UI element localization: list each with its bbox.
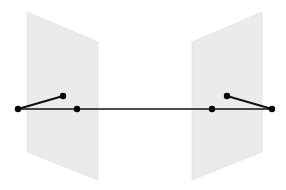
epipolar-diagram <box>0 0 286 190</box>
right-epipole <box>209 106 215 112</box>
left-epipole <box>74 106 80 112</box>
right-image-point <box>224 93 230 99</box>
left-camera-center <box>15 106 21 112</box>
right-camera-center <box>269 106 275 112</box>
left-image-point <box>60 93 66 99</box>
